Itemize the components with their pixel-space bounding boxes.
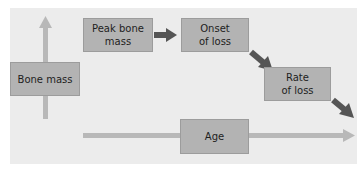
bone-mass-box: Bone mass	[10, 62, 80, 96]
flow-arrow-icon	[333, 100, 354, 118]
age-box: Age	[180, 119, 249, 154]
flow-arrow-icon	[154, 28, 177, 42]
onset-of-loss-box: Onset of loss	[181, 18, 249, 52]
rate-of-loss-box: Rate of loss	[264, 67, 331, 101]
peak-bone-mass-box: Peak bone mass	[83, 18, 153, 52]
